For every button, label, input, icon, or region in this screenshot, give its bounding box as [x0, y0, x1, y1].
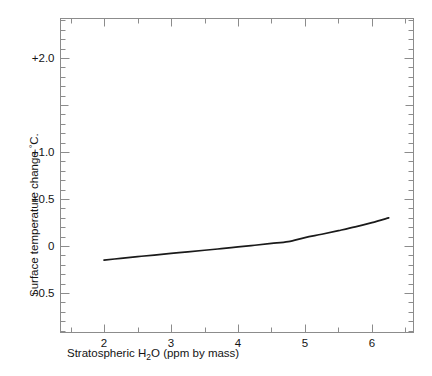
x-tick-label: 5: [302, 337, 308, 349]
y-tick-label: 0: [48, 240, 54, 252]
figure-container: 23456 +2.0+1.0+0.50−0.5 Stratospheric H2…: [0, 0, 432, 376]
x-tick-label: 6: [369, 337, 375, 349]
figure-background: [0, 0, 432, 376]
chart-plot: 23456 +2.0+1.0+0.50−0.5 Stratospheric H2…: [0, 0, 432, 376]
y-tick-label: +2.0: [32, 52, 55, 64]
y-axis-title: Surface temperature change °C.: [28, 133, 41, 297]
